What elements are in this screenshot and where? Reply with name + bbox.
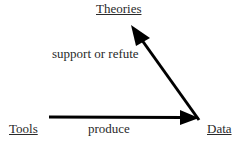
edge-label-produce: produce xyxy=(88,122,130,136)
node-theories: Theories xyxy=(96,2,141,16)
arrow-support-or-refute xyxy=(131,25,199,120)
node-data: Data xyxy=(207,122,232,136)
node-tools: Tools xyxy=(9,122,38,136)
edge-label-support-or-refute: support or refute xyxy=(52,47,139,61)
